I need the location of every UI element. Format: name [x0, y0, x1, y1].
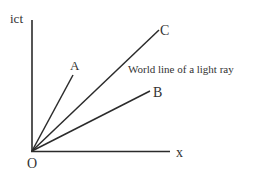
world-line-a	[32, 75, 73, 151]
light-ray-annotation: World line of a light ray	[128, 63, 234, 75]
line-c-label: C	[160, 23, 169, 38]
line-b-label: B	[153, 85, 162, 100]
world-line-b	[32, 91, 150, 151]
horizontal-axis-label: x	[176, 145, 183, 160]
origin-label: O	[27, 156, 37, 171]
line-a-label: A	[70, 58, 80, 73]
spacetime-diagram: ict O x A C B World line of a light ray	[0, 0, 254, 174]
vertical-axis-label: ict	[10, 11, 23, 26]
world-line-c-light-ray	[32, 30, 159, 151]
